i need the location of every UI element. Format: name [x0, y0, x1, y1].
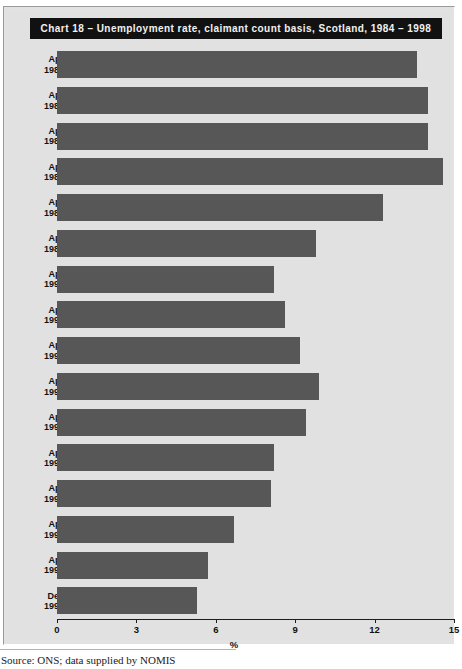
- bar-row: Apr1998: [8, 548, 460, 584]
- x-tick: [216, 619, 217, 623]
- bar-track: [57, 583, 457, 619]
- bar-track: [57, 119, 457, 155]
- bar-track: [57, 190, 457, 226]
- bar: [57, 123, 428, 150]
- bar-row: Apr1990: [8, 262, 460, 298]
- category-label: Apr1989: [0, 226, 64, 262]
- bar: [57, 587, 197, 614]
- x-tick: [57, 619, 58, 623]
- bar: [57, 480, 271, 507]
- x-axis-line: [57, 619, 454, 620]
- bar: [57, 158, 443, 185]
- plot-area: Apr1984Apr1985Apr1986Apr1987Apr1988Apr19…: [8, 47, 460, 637]
- source-note: Source: ONS; data supplied by NOMIS: [1, 654, 175, 666]
- chart-page: Chart 18 – Unemployment rate, claimant c…: [0, 0, 462, 669]
- bar-rows: Apr1984Apr1985Apr1986Apr1987Apr1988Apr19…: [8, 47, 460, 619]
- bar-track: [57, 83, 457, 119]
- bar-row: Dec1998: [8, 583, 460, 619]
- category-label: Apr1988: [0, 190, 64, 226]
- bar-track: [57, 405, 457, 441]
- bar-row: Apr1995: [8, 440, 460, 476]
- category-label: Apr1987: [0, 154, 64, 190]
- bar-track: [57, 369, 457, 405]
- bar: [57, 51, 417, 78]
- bar-track: [57, 154, 457, 190]
- bar-row: Apr1984: [8, 47, 460, 83]
- category-label: Apr1992: [0, 333, 64, 369]
- chart-title: Chart 18 – Unemployment rate, claimant c…: [30, 18, 442, 39]
- bar-track: [57, 262, 457, 298]
- bar-row: Apr1988: [8, 190, 460, 226]
- bar-row: Apr1991: [8, 297, 460, 333]
- figure-frame: Chart 18 – Unemployment rate, claimant c…: [3, 6, 455, 645]
- bar: [57, 87, 428, 114]
- x-tick-label: 0: [54, 624, 59, 635]
- bar-track: [57, 476, 457, 512]
- category-label: Apr1986: [0, 119, 64, 155]
- bar: [57, 516, 234, 543]
- bar-track: [57, 47, 457, 83]
- source-divider: [0, 649, 236, 650]
- bar-track: [57, 548, 457, 584]
- bar-row: Apr1994: [8, 405, 460, 441]
- bar-row: Apr1993: [8, 369, 460, 405]
- category-label: Apr1996: [0, 476, 64, 512]
- category-label: Apr1995: [0, 440, 64, 476]
- x-tick-label: 12: [369, 624, 380, 635]
- bar-row: Apr1986: [8, 119, 460, 155]
- bar: [57, 230, 316, 257]
- bar: [57, 194, 383, 221]
- bar-row: Apr1997: [8, 512, 460, 548]
- category-label: Apr1994: [0, 405, 64, 441]
- bar-row: Apr1987: [8, 154, 460, 190]
- x-tick: [454, 619, 455, 623]
- bar: [57, 301, 285, 328]
- bar-track: [57, 297, 457, 333]
- x-tick: [136, 619, 137, 623]
- bar: [57, 337, 300, 364]
- x-tick: [375, 619, 376, 623]
- x-tick-label: 3: [134, 624, 139, 635]
- bar-track: [57, 226, 457, 262]
- category-label: Apr1991: [0, 297, 64, 333]
- x-tick-label: 6: [213, 624, 218, 635]
- bar-row: Apr1992: [8, 333, 460, 369]
- bar: [57, 552, 208, 579]
- x-tick-label: 15: [449, 624, 460, 635]
- category-label: Apr1990: [0, 262, 64, 298]
- category-label: Apr1985: [0, 83, 64, 119]
- category-label: Dec1998: [0, 583, 64, 619]
- bar: [57, 409, 306, 436]
- category-label: Apr1984: [0, 47, 64, 83]
- bar-row: Apr1996: [8, 476, 460, 512]
- x-tick-label: 9: [293, 624, 298, 635]
- category-label: Apr1993: [0, 369, 64, 405]
- bar: [57, 444, 274, 471]
- bar-row: Apr1989: [8, 226, 460, 262]
- x-tick: [295, 619, 296, 623]
- bar-track: [57, 333, 457, 369]
- category-label: Apr1997: [0, 512, 64, 548]
- bar-row: Apr1985: [8, 83, 460, 119]
- bar-track: [57, 440, 457, 476]
- bar: [57, 373, 319, 400]
- figure-panel: Chart 18 – Unemployment rate, claimant c…: [8, 11, 450, 640]
- bar: [57, 266, 274, 293]
- bar-track: [57, 512, 457, 548]
- category-label: Apr1998: [0, 548, 64, 584]
